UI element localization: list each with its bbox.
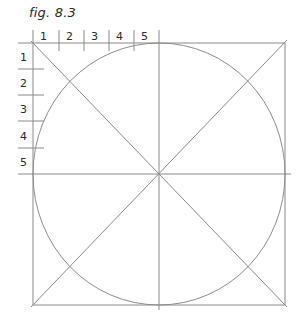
left-label-4: 4	[20, 130, 27, 143]
top-label-3: 3	[91, 30, 98, 43]
top-label-2: 2	[66, 30, 73, 43]
top-label-4: 4	[116, 30, 123, 43]
top-label-5: 5	[141, 30, 148, 43]
top-label-1: 1	[40, 30, 47, 43]
left-label-5: 5	[20, 156, 27, 169]
left-label-2: 2	[20, 77, 27, 90]
left-label-3: 3	[20, 103, 27, 116]
square-circle-diagram: 1 2 3 4 5 1 2 3 4 5	[0, 0, 299, 319]
left-label-1: 1	[20, 51, 27, 64]
